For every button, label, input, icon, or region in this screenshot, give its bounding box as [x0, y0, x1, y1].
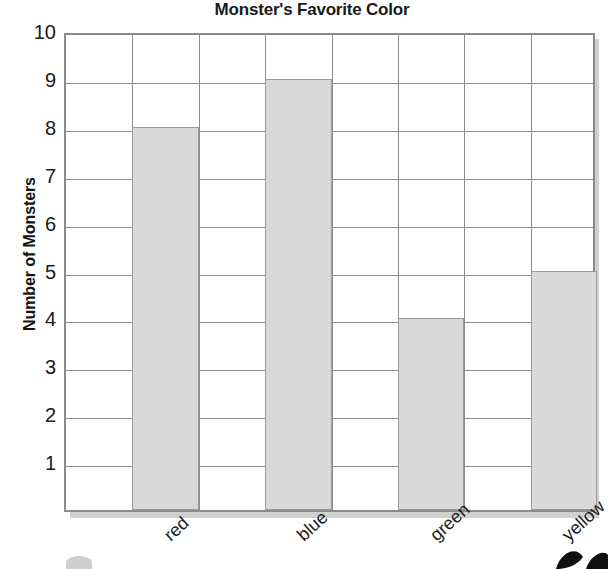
y-tick-5: 5 — [16, 261, 56, 284]
y-tick-4: 4 — [16, 308, 56, 331]
y-tick-8: 8 — [16, 117, 56, 140]
y-tick-6: 6 — [16, 213, 56, 236]
y-tick-2: 2 — [16, 404, 56, 427]
x-axis-tick-labels: redbluegreenyellow — [64, 518, 595, 569]
bar-red — [132, 127, 198, 510]
y-tick-1: 1 — [16, 452, 56, 475]
gridline-vertical — [464, 35, 465, 510]
bar-yellow — [531, 271, 597, 511]
x-tick-red: red — [160, 513, 193, 546]
y-axis-tick-labels: 10987654321 — [8, 33, 56, 512]
leaf-icon — [556, 543, 608, 569]
gridline-vertical — [199, 35, 200, 510]
blob-shape — [66, 556, 92, 569]
gridline-vertical — [332, 35, 333, 510]
y-tick-7: 7 — [16, 165, 56, 188]
bar-green — [398, 318, 464, 510]
y-tick-9: 9 — [16, 69, 56, 92]
y-tick-10: 10 — [16, 21, 56, 44]
bar-blue — [265, 79, 331, 510]
plot-area — [64, 33, 595, 512]
y-tick-3: 3 — [16, 356, 56, 379]
page-title: Monster's Favorite Color — [64, 0, 560, 20]
